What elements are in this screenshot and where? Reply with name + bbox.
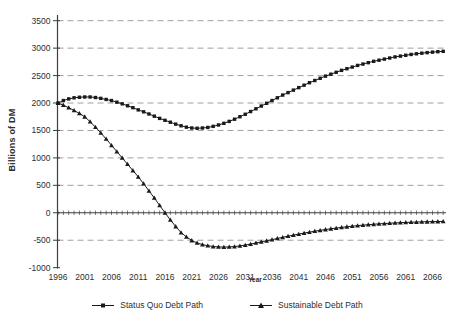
square-marker (404, 54, 407, 57)
square-marker (88, 95, 91, 98)
square-marker (372, 60, 375, 63)
square-marker (104, 98, 107, 101)
square-marker (211, 125, 214, 128)
square-marker (308, 81, 311, 84)
x-tick-label: 2021 (182, 272, 201, 282)
square-marker (415, 52, 418, 55)
square-marker (270, 99, 273, 102)
square-marker (83, 95, 86, 98)
square-marker (393, 55, 396, 58)
status-quo-debt-path-line (58, 51, 443, 128)
square-marker (335, 71, 338, 74)
square-marker (195, 127, 198, 130)
status-quo-debt-path-series (56, 50, 445, 130)
x-tick-label: 2001 (75, 272, 94, 282)
square-marker (329, 73, 332, 76)
square-marker (420, 51, 423, 54)
x-tick-label: 2006 (102, 272, 121, 282)
triangle-marker (82, 114, 87, 118)
x-tick-label: 2026 (209, 272, 228, 282)
square-marker (110, 99, 113, 102)
y-tick-label: 1000 (32, 153, 51, 163)
square-marker (351, 65, 354, 68)
triangle-marker-line-icon (249, 301, 273, 310)
square-marker (179, 124, 182, 127)
x-tick-label: 2041 (289, 272, 308, 282)
square-marker (431, 50, 434, 53)
square-marker (281, 93, 284, 96)
square-marker (174, 122, 177, 125)
square-marker (190, 126, 193, 129)
square-marker (158, 117, 161, 120)
square-marker (302, 83, 305, 86)
square-marker-line-icon (91, 301, 115, 310)
square-marker (153, 114, 156, 117)
square-marker (217, 123, 220, 126)
square-marker (201, 126, 204, 129)
square-marker (222, 122, 225, 125)
square-marker (260, 104, 263, 107)
square-marker (238, 115, 241, 118)
square-marker (233, 118, 236, 121)
x-tick-label: 2011 (129, 272, 148, 282)
square-marker (324, 74, 327, 77)
triangle-marker (77, 111, 82, 115)
square-marker (244, 113, 247, 116)
x-tick-label: 2051 (343, 272, 362, 282)
square-marker (361, 62, 364, 65)
x-tick-label: 2016 (156, 272, 175, 282)
square-marker (206, 126, 209, 129)
square-marker (383, 57, 386, 60)
square-marker (249, 110, 252, 113)
chart-plot-area: 3500300025002000150010005000-500-1000199… (0, 0, 454, 329)
y-tick-label: 2000 (32, 98, 51, 108)
y-tick-label: -1000 (29, 263, 51, 273)
square-marker (78, 96, 81, 99)
y-tick-label: 1500 (32, 125, 51, 135)
square-marker (72, 96, 75, 99)
legend-label-status-quo: Status Quo Debt Path (120, 300, 203, 310)
square-marker (377, 59, 380, 62)
legend: Status Quo Debt Path Sustainable Debt Pa… (0, 300, 454, 310)
square-marker (228, 120, 231, 123)
square-marker (121, 102, 124, 105)
legend-item-sustainable: Sustainable Debt Path (249, 300, 363, 310)
square-marker (367, 61, 370, 64)
square-marker (425, 51, 428, 54)
y-tick-label: 3000 (32, 43, 51, 53)
square-marker (286, 91, 289, 94)
square-marker (147, 112, 150, 115)
y-tick-label: 500 (36, 180, 50, 190)
square-marker (409, 53, 412, 56)
y-tick-label: 3500 (32, 16, 51, 26)
legend-label-sustainable: Sustainable Debt Path (278, 300, 363, 310)
square-marker (94, 96, 97, 99)
sustainable-debt-path-series (56, 101, 446, 249)
square-marker (163, 119, 166, 122)
square-marker (313, 79, 316, 82)
y-axis-title: Billions of DM (7, 94, 19, 186)
square-marker (62, 99, 65, 102)
square-marker (254, 107, 257, 110)
square-marker (99, 97, 102, 100)
square-marker (297, 86, 300, 89)
sustainable-debt-path-line (58, 103, 443, 247)
y-tick-label: 0 (46, 208, 51, 218)
square-marker (345, 67, 348, 70)
debt-path-chart: 3500300025002000150010005000-500-1000199… (0, 0, 454, 329)
square-marker (318, 77, 321, 80)
square-marker (131, 106, 134, 109)
square-marker (67, 97, 70, 100)
square-marker (436, 50, 439, 53)
y-tick-label: 2500 (32, 71, 51, 81)
y-tick-label: -500 (33, 235, 50, 245)
square-marker (388, 56, 391, 59)
x-axis-title: Year (233, 276, 277, 283)
square-marker (442, 50, 445, 53)
square-marker (356, 64, 359, 67)
square-marker (115, 100, 118, 103)
square-marker (142, 110, 145, 113)
legend-item-status-quo: Status Quo Debt Path (91, 300, 203, 310)
square-marker (265, 102, 268, 105)
x-tick-label: 2056 (370, 272, 389, 282)
